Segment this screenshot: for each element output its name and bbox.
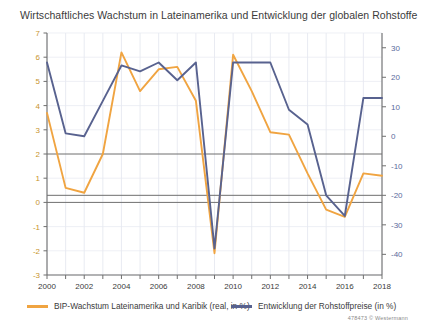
chart-figure: Wirtschaftliches Wachstum in Lateinameri…: [0, 0, 436, 331]
axis-left-tick-label: -1: [33, 223, 41, 232]
axis-bottom-tick-label: 2004: [113, 282, 131, 291]
legend-label-commodities: Entwicklung der Rohstoffpreise (in %): [258, 301, 396, 311]
axis-right-tick-label: -30: [391, 221, 403, 230]
chart-legend: BIP-Wachstum Lateinamerika und Karibik (…: [0, 299, 436, 331]
axis-bottom-tick-label: 2010: [224, 282, 242, 291]
credit-line: 478473 © Westermann: [348, 315, 408, 321]
axis-bottom-tick-label: 2018: [373, 282, 391, 291]
axis-right-tick-label: 30: [391, 44, 400, 53]
axis-left-tick-label: 5: [36, 77, 41, 86]
axis-left-tick-label: -2: [33, 247, 41, 256]
axis-left-tick-label: 4: [36, 102, 41, 111]
axis-bottom-tick-label: 2014: [299, 282, 317, 291]
legend-label-gdp: BIP-Wachstum Lateinamerika und Karibik (…: [54, 301, 250, 311]
legend-swatch-commodities: [231, 305, 252, 308]
axis-right-tick-label: 20: [391, 73, 400, 82]
axis-bottom-tick-label: 2002: [75, 282, 93, 291]
axis-left-tick-label: 1: [36, 174, 41, 183]
axis-left-tick-label: 7: [36, 29, 41, 38]
axis-right-tick-label: 10: [391, 103, 400, 112]
axis-bottom-tick-label: 2012: [261, 282, 279, 291]
axis-bottom-tick-label: 2000: [38, 282, 56, 291]
axis-right-tick-label: -20: [391, 191, 403, 200]
axis-right-tick-label: -40: [391, 250, 403, 259]
chart-plot-svg: -3-2-101234567-40-30-20-1001020302000200…: [0, 0, 436, 300]
axis-bottom-tick-label: 2016: [336, 282, 354, 291]
axis-left-tick-label: 2: [36, 150, 41, 159]
plot-area: -3-2-101234567-40-30-20-1001020302000200…: [0, 0, 436, 300]
axis-bottom-tick-label: 2006: [150, 282, 168, 291]
legend-item-gdp: BIP-Wachstum Lateinamerika und Karibik (…: [27, 301, 250, 311]
legend-swatch-gdp: [27, 305, 48, 308]
axis-left-tick-label: 6: [36, 53, 41, 62]
axis-right-tick-label: 0: [391, 132, 396, 141]
axis-left-tick-label: -3: [33, 271, 41, 280]
axis-left-tick-label: 3: [36, 126, 41, 135]
axis-bottom-tick-label: 2008: [187, 282, 205, 291]
axis-right-tick-label: -10: [391, 162, 403, 171]
axis-left-tick-label: 0: [36, 198, 41, 207]
legend-item-commodities: Entwicklung der Rohstoffpreise (in %): [231, 301, 396, 311]
